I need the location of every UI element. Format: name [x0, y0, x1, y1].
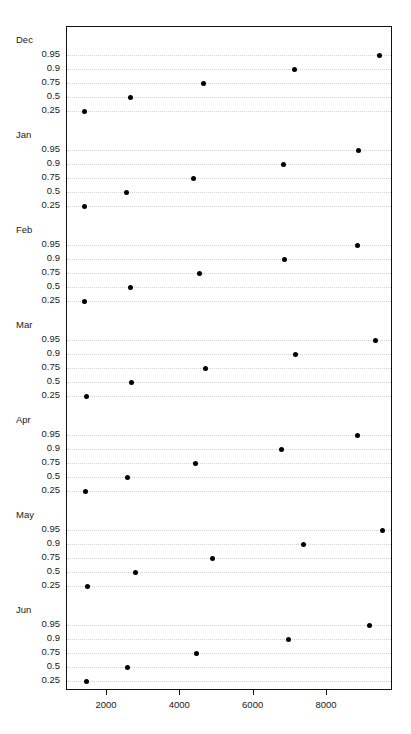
data-point	[129, 380, 134, 385]
data-point	[373, 338, 378, 343]
data-point	[83, 489, 88, 494]
gridline	[67, 340, 391, 341]
quantile-label: 0.5	[16, 660, 60, 671]
panel-label-jan: Jan	[16, 129, 31, 140]
data-point	[281, 162, 286, 167]
data-point	[355, 243, 360, 248]
quantile-label: 0.25	[16, 294, 60, 305]
x-tick-label: 6000	[231, 699, 275, 710]
panel-label-mar: Mar	[16, 319, 32, 330]
gridline	[67, 287, 391, 288]
gridline	[67, 667, 391, 668]
data-point	[293, 352, 298, 357]
quantile-label: 0.9	[16, 62, 60, 73]
data-point	[301, 542, 306, 547]
quantile-label: 0.25	[16, 579, 60, 590]
data-point	[125, 665, 130, 670]
quantile-label: 0.9	[16, 347, 60, 358]
gridline	[67, 586, 391, 587]
quantile-label: 0.25	[16, 484, 60, 495]
panel-label-apr: Apr	[16, 414, 31, 425]
gridline	[67, 625, 391, 626]
gridline	[67, 396, 391, 397]
data-point	[85, 584, 90, 589]
data-point	[191, 176, 196, 181]
quantile-label: 0.5	[16, 565, 60, 576]
chart-page: Dec0.950.90.750.50.25Jan0.950.90.750.50.…	[0, 0, 411, 734]
x-tick	[253, 690, 254, 695]
gridline	[67, 97, 391, 98]
data-point	[355, 433, 360, 438]
quantile-label: 0.25	[16, 104, 60, 115]
data-point	[84, 394, 89, 399]
plot-frame	[66, 26, 392, 690]
quantile-label: 0.95	[16, 523, 60, 534]
quantile-label: 0.75	[16, 456, 60, 467]
quantile-label: 0.5	[16, 90, 60, 101]
gridline	[67, 382, 391, 383]
quantile-label: 0.95	[16, 428, 60, 439]
x-tick	[326, 690, 327, 695]
x-tick-label: 8000	[304, 699, 348, 710]
quantile-label: 0.95	[16, 238, 60, 249]
quantile-label: 0.75	[16, 551, 60, 562]
data-point	[124, 190, 129, 195]
quantile-label: 0.25	[16, 674, 60, 685]
quantile-label: 0.95	[16, 333, 60, 344]
quantile-label: 0.25	[16, 389, 60, 400]
quantile-label: 0.5	[16, 185, 60, 196]
gridline	[67, 653, 391, 654]
gridline	[67, 273, 391, 274]
gridline	[67, 530, 391, 531]
data-point	[367, 623, 372, 628]
data-point	[128, 95, 133, 100]
x-tick	[179, 690, 180, 695]
panel-label-feb: Feb	[16, 224, 32, 235]
quantile-label: 0.75	[16, 361, 60, 372]
data-point	[292, 67, 297, 72]
gridline	[67, 572, 391, 573]
panel-label-dec: Dec	[16, 34, 33, 45]
gridline	[67, 69, 391, 70]
data-point	[197, 271, 202, 276]
data-point	[201, 81, 206, 86]
gridline	[67, 164, 391, 165]
quantile-label: 0.5	[16, 375, 60, 386]
gridline	[67, 463, 391, 464]
quantile-label: 0.95	[16, 618, 60, 629]
gridline	[67, 449, 391, 450]
gridline	[67, 435, 391, 436]
quantile-label: 0.9	[16, 632, 60, 643]
running-header	[250, 0, 400, 8]
x-tick-label: 4000	[157, 699, 201, 710]
data-point	[380, 528, 385, 533]
data-point	[356, 148, 361, 153]
quantile-label: 0.9	[16, 537, 60, 548]
data-point	[194, 651, 199, 656]
gridline	[67, 178, 391, 179]
data-point	[125, 475, 130, 480]
quantile-label: 0.75	[16, 266, 60, 277]
quantile-label: 0.75	[16, 646, 60, 657]
gridline	[67, 477, 391, 478]
gridline	[67, 111, 391, 112]
data-point	[210, 556, 215, 561]
gridline	[67, 206, 391, 207]
quantile-label: 0.9	[16, 442, 60, 453]
gridline	[67, 150, 391, 151]
gridline	[67, 83, 391, 84]
quantile-label: 0.25	[16, 199, 60, 210]
quantile-label: 0.5	[16, 470, 60, 481]
data-point	[203, 366, 208, 371]
x-tick-label: 2000	[84, 699, 128, 710]
panel-label-may: May	[16, 509, 34, 520]
data-point	[286, 637, 291, 642]
quantile-label: 0.95	[16, 48, 60, 59]
gridline	[67, 681, 391, 682]
quantile-label: 0.95	[16, 143, 60, 154]
gridline	[67, 491, 391, 492]
quantile-label: 0.9	[16, 252, 60, 263]
quantile-label: 0.9	[16, 157, 60, 168]
gridline	[67, 55, 391, 56]
gridline	[67, 368, 391, 369]
